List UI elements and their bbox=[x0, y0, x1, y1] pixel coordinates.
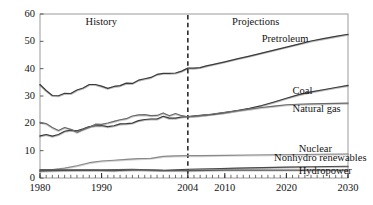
y-tick-label-40: 40 bbox=[13, 64, 35, 75]
series-label-coal: Coal bbox=[293, 86, 313, 97]
x-tick-label-1980: 1980 bbox=[20, 183, 60, 194]
series-label-hydropower: Hydropower bbox=[299, 166, 352, 177]
projections-label: Projections bbox=[232, 17, 279, 28]
x-tick-label-2010: 2010 bbox=[205, 183, 245, 194]
series-label-pretroleum: Pretroleum bbox=[262, 34, 309, 45]
y-tick-label-20: 20 bbox=[13, 118, 35, 129]
y-tick-label-50: 50 bbox=[13, 36, 35, 47]
x-tick-label-2030: 2030 bbox=[328, 183, 368, 194]
x-tick-label-1990: 1990 bbox=[82, 183, 122, 194]
y-tick-label-10: 10 bbox=[13, 146, 35, 157]
history-label: History bbox=[86, 17, 118, 28]
x-tick-label-2020: 2020 bbox=[266, 183, 306, 194]
y-tick-label-30: 30 bbox=[13, 91, 35, 102]
energy-consumption-chart: 0102030405060198019902004201020202030His… bbox=[0, 0, 373, 205]
y-tick-label-60: 60 bbox=[13, 9, 35, 20]
series-label-nonhydro-renewables: Nonhydro renewables bbox=[274, 153, 366, 164]
x-tick-label-2004: 2004 bbox=[168, 183, 208, 194]
series-label-natural-gas: Natural gas bbox=[293, 104, 341, 115]
